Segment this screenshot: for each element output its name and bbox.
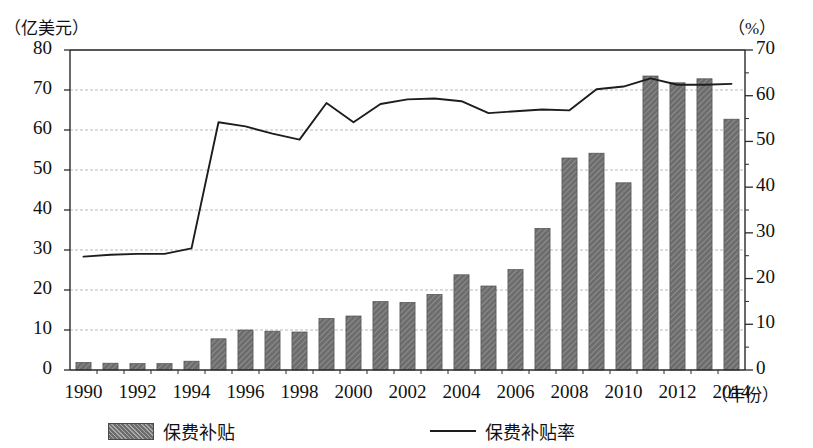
x-axis-tick-label: 2008 xyxy=(551,381,589,403)
bar xyxy=(265,331,280,370)
x-axis-tick-label: 2012 xyxy=(659,381,697,403)
bar xyxy=(346,316,361,370)
x-axis-tick-label: 2002 xyxy=(389,381,427,403)
bar xyxy=(616,183,631,370)
y2-axis-tick-label: 60 xyxy=(756,83,796,105)
legend-item-line: 保费补贴率 xyxy=(430,418,575,444)
legend-item-bar: 保费补贴 xyxy=(108,418,235,444)
y-axis-tick-label: 40 xyxy=(14,197,52,219)
bar xyxy=(211,339,226,370)
bar xyxy=(292,332,307,370)
x-axis-tick-label: 2004 xyxy=(443,381,481,403)
y-axis-tick-label: 30 xyxy=(14,237,52,259)
bar xyxy=(454,275,469,370)
y2-axis-tick-label: 30 xyxy=(756,220,796,242)
rate-line xyxy=(84,78,732,256)
y-axis-tick-label: 80 xyxy=(14,37,52,59)
bar xyxy=(427,294,442,370)
bar xyxy=(589,153,604,370)
bar xyxy=(319,318,334,370)
bar xyxy=(643,76,658,370)
x-axis-tick-label: 1992 xyxy=(119,381,157,403)
legend-line-label: 保费补贴率 xyxy=(485,418,575,444)
line-series xyxy=(84,78,732,256)
bar xyxy=(76,362,91,370)
y-axis-tick-label: 70 xyxy=(14,77,52,99)
y2-axis-tick-label: 50 xyxy=(756,128,796,150)
x-axis-tick-label: 2006 xyxy=(497,381,535,403)
bar-series xyxy=(76,76,739,370)
legend-bar-label: 保费补贴 xyxy=(163,418,235,444)
bar xyxy=(130,364,145,370)
x-axis-tick-label: 1990 xyxy=(65,381,103,403)
x-axis-title: （年份） xyxy=(711,381,779,406)
x-axis-tick-label: 2010 xyxy=(605,381,643,403)
x-axis-tick-label: 1994 xyxy=(173,381,211,403)
bar xyxy=(103,363,118,370)
bar xyxy=(157,364,172,370)
legend: 保费补贴 保费补贴率 xyxy=(0,418,813,448)
bar xyxy=(562,158,577,370)
x-axis-tick-label: 1996 xyxy=(227,381,265,403)
right-axis-title: （%） xyxy=(728,14,776,39)
y2-axis-tick-label: 20 xyxy=(756,266,796,288)
y-axis-tick-label: 60 xyxy=(14,117,52,139)
bar xyxy=(508,270,523,370)
legend-line-swatch-icon xyxy=(430,430,476,432)
y-axis-tick-label: 10 xyxy=(14,317,52,339)
y2-axis-tick-label: 10 xyxy=(756,311,796,333)
bar xyxy=(481,286,496,370)
y-axis-tick-label: 20 xyxy=(14,277,52,299)
y2-axis-tick-label: 0 xyxy=(756,357,796,379)
bar xyxy=(697,79,712,370)
y-axis-tick-label: 50 xyxy=(14,157,52,179)
bar xyxy=(184,361,199,370)
bar xyxy=(670,83,685,370)
bar xyxy=(724,119,739,370)
y2-axis-tick-label: 70 xyxy=(756,37,796,59)
x-axis-tick-label: 2000 xyxy=(335,381,373,403)
chart-container: （亿美元） （%） 80706050403020100 706050403020… xyxy=(0,0,813,448)
x-axis-tick-label: 1998 xyxy=(281,381,319,403)
bar xyxy=(535,228,550,370)
y-axis-tick-label: 0 xyxy=(14,357,52,379)
bar xyxy=(373,302,388,370)
bar xyxy=(400,302,415,370)
bar xyxy=(238,330,253,370)
y2-axis-tick-label: 40 xyxy=(756,174,796,196)
left-axis-title: （亿美元） xyxy=(4,14,89,39)
legend-bar-swatch-icon xyxy=(108,423,154,440)
